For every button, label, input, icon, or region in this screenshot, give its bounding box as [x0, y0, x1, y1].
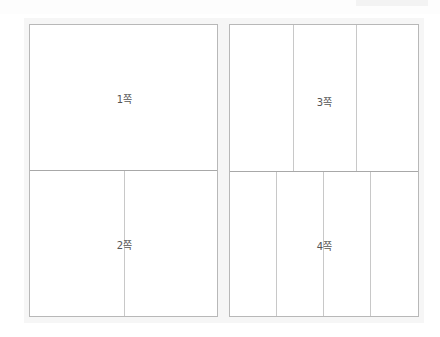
page-label-3: 3쪽 — [317, 94, 331, 109]
top-bar — [0, 0, 440, 14]
page-divider — [230, 171, 418, 172]
left-spread: 1쪽 2쪽 — [29, 24, 218, 317]
column-line — [293, 25, 294, 171]
page-label-4: 4쪽 — [317, 238, 331, 253]
right-spread: 3쪽 4쪽 — [229, 24, 419, 317]
top-tab — [356, 0, 428, 6]
column-line — [370, 172, 371, 316]
page-label-2: 2쪽 — [117, 237, 131, 252]
page-label-1: 1쪽 — [117, 91, 131, 106]
column-line — [356, 25, 357, 171]
column-line — [276, 172, 277, 316]
